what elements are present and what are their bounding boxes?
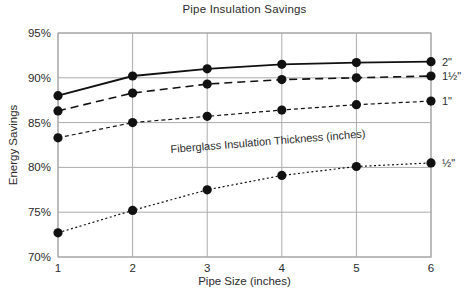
series-line — [58, 62, 431, 96]
series-end-label: ½" — [442, 157, 455, 169]
data-point-marker — [426, 158, 435, 167]
data-point-marker — [53, 133, 62, 142]
x-axis-label: Pipe Size (inches) — [58, 275, 431, 287]
y-tick-label: 75% — [28, 206, 51, 218]
y-tick-label: 95% — [28, 27, 51, 39]
y-tick-label: 80% — [28, 161, 51, 173]
data-point-marker — [128, 118, 137, 127]
data-point-marker — [277, 60, 286, 69]
series-line — [58, 101, 431, 138]
series-end-label: 1½" — [442, 70, 461, 82]
data-point-marker — [426, 57, 435, 66]
data-point-marker — [277, 171, 286, 180]
data-point-marker — [352, 73, 361, 82]
data-point-marker — [426, 71, 435, 80]
chart-title: Pipe Insulation Savings — [58, 3, 431, 15]
data-point-marker — [128, 206, 137, 215]
data-point-marker — [203, 112, 212, 121]
y-tick-label: 70% — [28, 251, 51, 263]
data-point-marker — [203, 185, 212, 194]
data-point-marker — [352, 58, 361, 67]
data-point-marker — [53, 228, 62, 237]
series-end-label: 2" — [442, 56, 452, 68]
data-point-marker — [128, 71, 137, 80]
y-axis-label: Energy Savings — [7, 105, 19, 186]
data-point-marker — [352, 100, 361, 109]
x-tick-label: 1 — [55, 262, 61, 274]
pipe-insulation-savings-chart: 95%90%85%80%75%70%1234562"1½"1"½" Pipe I… — [0, 0, 469, 302]
x-tick-label: 2 — [129, 262, 135, 274]
data-point-marker — [128, 88, 137, 97]
data-point-marker — [352, 162, 361, 171]
plot-area: 95%90%85%80%75%70%1234562"1½"1"½" — [0, 0, 469, 302]
data-point-marker — [277, 75, 286, 84]
x-tick-label: 5 — [353, 262, 359, 274]
y-tick-label: 85% — [28, 117, 51, 129]
data-point-marker — [203, 79, 212, 88]
data-point-marker — [277, 105, 286, 114]
y-tick-label: 90% — [28, 72, 51, 84]
series-end-label: 1" — [442, 95, 452, 107]
series-line — [58, 163, 431, 233]
data-point-marker — [53, 91, 62, 100]
data-point-marker — [426, 96, 435, 105]
data-point-marker — [203, 64, 212, 73]
x-tick-label: 6 — [428, 262, 434, 274]
x-tick-label: 4 — [279, 262, 286, 274]
data-point-marker — [53, 106, 62, 115]
x-tick-label: 3 — [204, 262, 210, 274]
